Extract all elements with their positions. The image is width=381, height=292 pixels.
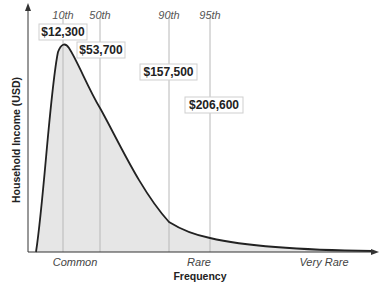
value-label-90th: $157,500 — [143, 65, 193, 79]
distribution-area — [36, 45, 372, 252]
y-axis-title: Household Income (USD) — [10, 77, 22, 203]
percentile-label-90th: 90th — [158, 9, 179, 21]
income-distribution-chart: 10th 50th 90th 95th $12,300 $53,700 $157… — [0, 0, 381, 292]
x-category-rare: Rare — [187, 256, 211, 268]
value-label-95th: $206,600 — [189, 98, 239, 112]
x-axis-title: Frequency — [173, 270, 226, 282]
value-label-10th: $12,300 — [41, 25, 85, 39]
percentile-label-50th: 50th — [89, 9, 110, 21]
x-category-very-rare: Very Rare — [299, 256, 348, 268]
x-category-common: Common — [53, 256, 98, 268]
y-axis-arrow-icon — [25, 3, 31, 11]
percentile-label-10th: 10th — [52, 9, 73, 21]
value-label-50th: $53,700 — [79, 43, 123, 57]
percentile-label-95th: 95th — [199, 9, 220, 21]
x-axis-arrow-icon — [371, 249, 379, 255]
